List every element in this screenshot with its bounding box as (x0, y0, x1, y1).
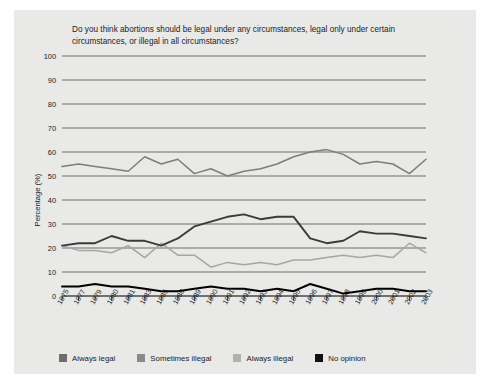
y-tick-label: 90 (48, 76, 56, 85)
x-tick-label: 1996 (303, 288, 319, 306)
y-tick-label: 100 (44, 52, 56, 61)
x-tick-label: 1990 (204, 288, 220, 306)
x-tick-label: 1981 (121, 288, 137, 306)
y-tick-labels: 0102030405060708090100 (44, 52, 56, 301)
y-tick-label: 10 (48, 268, 56, 277)
legend-item[interactable]: Always legal (59, 354, 115, 363)
series-line-always-legal (62, 214, 426, 245)
plot-area: 0102030405060708090100 19751977197919801… (14, 10, 476, 374)
legend-item[interactable]: No opinion (315, 354, 365, 363)
legend-label: Always legal (72, 354, 115, 363)
legend-swatch-icon (233, 354, 241, 362)
legend-label: Always illegal (246, 354, 293, 363)
chart-legend: Always legalSometimes illegalAlways ille… (59, 350, 459, 366)
y-tick-label: 30 (48, 220, 56, 229)
x-tick-label: 1975 (55, 288, 71, 306)
legend-label: No opinion (328, 354, 365, 363)
legend-swatch-icon (137, 354, 145, 362)
x-tick-label: 1980 (105, 288, 121, 306)
x-tick-label: 1991 (220, 288, 236, 306)
y-tick-label: 20 (48, 244, 56, 253)
x-tick-label: 1998 (336, 288, 352, 306)
x-tick-label: 1977 (71, 288, 87, 306)
legend-swatch-icon (59, 354, 67, 362)
chart-figure: Do you think abortions should be legal u… (14, 10, 476, 374)
y-tick-label: 50 (48, 172, 56, 181)
legend-swatch-icon (315, 354, 323, 362)
x-tick-label: 1979 (88, 288, 104, 306)
y-tick-label: 60 (48, 148, 56, 157)
y-axis-label: Percentage (%) (33, 173, 42, 226)
series-line-sometimes-illegal (62, 150, 426, 176)
legend-item[interactable]: Sometimes illegal (137, 354, 211, 363)
y-tick-label: 80 (48, 100, 56, 109)
chart-svg: 0102030405060708090100 19751977197919801… (14, 10, 476, 374)
legend-label: Sometimes illegal (150, 354, 211, 363)
y-tick-label: 40 (48, 196, 56, 205)
gridlines (62, 56, 426, 296)
y-tick-label: 70 (48, 124, 56, 133)
x-tick-labels: 1975197719791980198119831985198819891990… (55, 288, 435, 306)
series-line-always-illegal (62, 243, 426, 267)
legend-item[interactable]: Always illegal (233, 354, 293, 363)
